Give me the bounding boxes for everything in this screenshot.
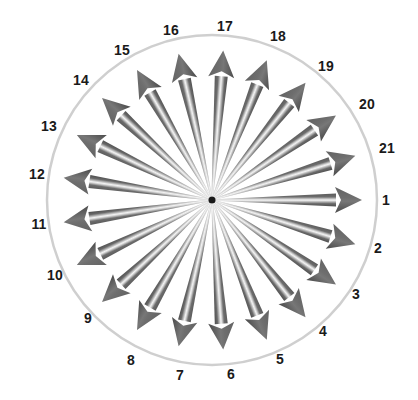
tick-label-17: 17 xyxy=(217,19,233,33)
arrow-head xyxy=(245,310,279,345)
tick-label-14: 14 xyxy=(73,73,89,87)
tick-label-20: 20 xyxy=(359,97,375,111)
tick-label-9: 9 xyxy=(84,311,92,325)
arrow-shaft xyxy=(206,204,228,325)
arrow-head xyxy=(245,56,279,91)
arrow-head xyxy=(208,49,236,78)
arrow-head xyxy=(62,165,93,195)
tick-label-6: 6 xyxy=(227,367,235,381)
arrow-head xyxy=(208,322,236,351)
tick-label-8: 8 xyxy=(127,353,135,367)
arrow-head xyxy=(335,187,362,213)
tick-label-1: 1 xyxy=(382,193,390,207)
radial-dial-figure: 123456789101112131415161718192021 xyxy=(0,0,418,400)
arrow-shaft xyxy=(216,194,336,207)
arrow-head xyxy=(166,317,197,349)
tick-label-15: 15 xyxy=(114,43,130,57)
tick-label-10: 10 xyxy=(47,268,63,282)
tick-label-19: 19 xyxy=(318,59,334,73)
center-hub xyxy=(208,196,215,203)
tick-label-21: 21 xyxy=(379,141,395,155)
tick-label-13: 13 xyxy=(41,119,57,133)
arrow-shaft xyxy=(178,202,217,322)
tick-label-11: 11 xyxy=(31,217,46,231)
tick-label-12: 12 xyxy=(29,167,45,181)
arrow-head xyxy=(326,224,359,257)
tick-label-2: 2 xyxy=(374,241,382,255)
tick-label-7: 7 xyxy=(176,368,184,382)
radial-dial-canvas xyxy=(0,0,418,400)
tick-label-3: 3 xyxy=(352,287,360,301)
arrow-head xyxy=(166,51,197,83)
tick-label-16: 16 xyxy=(163,23,179,37)
tick-label-18: 18 xyxy=(270,29,286,43)
tick-label-5: 5 xyxy=(276,352,284,366)
arrow-head xyxy=(62,205,93,235)
arrow-shaft xyxy=(178,78,217,198)
tick-label-4: 4 xyxy=(319,324,327,338)
arrow-head xyxy=(326,143,359,176)
arrow-shaft xyxy=(206,76,228,197)
